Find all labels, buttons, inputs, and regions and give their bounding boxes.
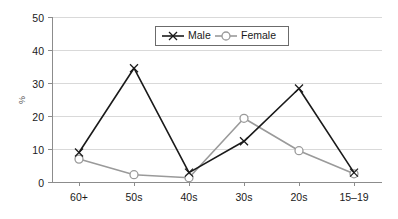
series-male — [75, 64, 358, 176]
legend-label-female: Female — [241, 29, 276, 41]
series-male-markers — [75, 64, 358, 176]
line-chart: 50 40 30 20 10 0 % 60+ 50s 40s 30s 20s 1… — [0, 0, 398, 219]
y-axis-title: % — [17, 96, 27, 104]
legend-label-male: Male — [188, 29, 211, 41]
x-axis-labels: 60+ 50s 40s 30s 20s 15–19 — [70, 191, 369, 203]
data-point-male-20s — [295, 85, 303, 93]
y-axis-labels: 50 40 30 20 10 0 — [32, 12, 44, 189]
x-tick-label-50s: 50s — [126, 191, 143, 203]
legend-marker-female-circle-icon — [222, 32, 230, 40]
x-tick-label-40s: 40s — [181, 191, 198, 203]
data-point-male-50s — [130, 64, 138, 72]
data-point-female-20s — [295, 147, 303, 155]
y-tick-label-40: 40 — [32, 45, 44, 57]
chart-canvas: 50 40 30 20 10 0 % 60+ 50s 40s 30s 20s 1… — [0, 0, 398, 219]
y-tick-marks — [48, 18, 52, 183]
x-tick-label-20s: 20s — [291, 191, 308, 203]
series-female — [75, 114, 358, 181]
data-point-male-30s — [240, 137, 248, 145]
x-tick-label-15-19: 15–19 — [339, 191, 368, 203]
y-tick-label-20: 20 — [32, 111, 44, 123]
data-point-female-60plus — [75, 155, 83, 163]
y-tick-label-50: 50 — [32, 12, 44, 24]
data-point-female-50s — [130, 171, 138, 179]
series-female-line — [79, 118, 354, 177]
y-tick-label-30: 30 — [32, 78, 44, 90]
chart-legend: Male Female — [156, 27, 289, 46]
y-tick-label-0: 0 — [38, 177, 44, 189]
data-point-female-30s — [240, 114, 248, 122]
y-tick-label-10: 10 — [32, 144, 44, 156]
x-tick-label-30s: 30s — [236, 191, 253, 203]
data-point-female-15-19 — [350, 170, 358, 178]
x-tick-label-60plus: 60+ — [70, 191, 88, 203]
